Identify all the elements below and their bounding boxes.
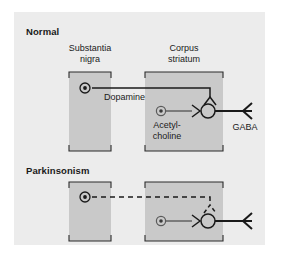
region-label-substantia-nigra-line1: Substantia: [58, 44, 122, 54]
gaba-soma-parkinsonism: [201, 214, 215, 228]
panel-title-parkinsonism: Parkinsonism: [26, 166, 90, 176]
panel-title-normal: Normal: [26, 27, 59, 37]
region-label-corpus-striatum-line2: striatum: [152, 55, 216, 65]
neurotransmitter-label-dopamine: Dopamine: [104, 93, 145, 103]
region-corpus-striatum-parkinsonism: [145, 182, 223, 241]
acetylcholine-soma-inner-parkinsonism: [159, 219, 163, 223]
neurotransmitter-label-acetylcholine-line2: choline: [138, 132, 196, 142]
region-label-substantia-nigra-line2: nigra: [58, 55, 122, 65]
gaba-soma-normal: [201, 104, 215, 118]
region-substantia-nigra-normal: [69, 72, 111, 151]
acetylcholine-soma-inner-normal: [159, 109, 163, 113]
dopamine-soma-inner-parkinsonism: [83, 195, 87, 199]
region-substantia-nigra-parkinsonism: [69, 182, 111, 241]
region-label-corpus-striatum-line1: Corpus: [152, 44, 216, 54]
figure-root: Normal Substantia nigra Corpus striatum …: [0, 0, 303, 263]
neurotransmitter-label-acetylcholine-line1: Acetyl-: [138, 121, 196, 131]
dopamine-soma-inner-normal: [83, 86, 87, 90]
neurotransmitter-label-gaba: GABA: [222, 123, 268, 133]
